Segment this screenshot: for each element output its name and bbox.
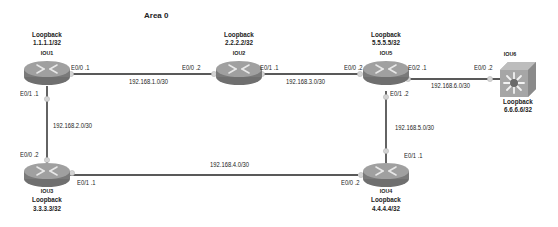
iou4-loopback-address: 4.4.4.4/32 (355, 204, 418, 214)
iou3-e0-1-interface: E0/1 .1 (77, 179, 96, 186)
links (47, 74, 510, 175)
iou6-e0-0-interface: E0/0 .2 (474, 64, 493, 71)
iou3-loopback-address: 3.3.3.3/32 (16, 204, 79, 214)
router-iou3-icon[interactable] (24, 163, 70, 187)
router-iou5-icon[interactable] (363, 61, 409, 85)
iou2-e0-0-interface: E0/0 .2 (182, 64, 201, 71)
iou2-loopback-address: 2.2.2.2/32 (208, 38, 271, 48)
iou1-e0-0-interface: E0/0 .1 (71, 64, 90, 71)
subnet-192-168-5-0: 192.168.5.0/30 (395, 124, 434, 131)
switch-iou6-icon[interactable] (500, 62, 536, 97)
iou5-e0-2-interface: E0/2 .1 (408, 64, 427, 71)
area-title: Area 0 (144, 11, 168, 20)
subnet-192-168-2-0: 192.168.2.0/30 (53, 122, 92, 129)
network-diagram: Area 0 Loopback 1.1.1.1/32 IOU1 Loopback… (0, 0, 558, 227)
iou3-e0-0-interface: E0/0 .2 (20, 151, 39, 158)
iou5-name: IOU5 (355, 48, 418, 58)
iou5-loopback-address: 5.5.5.5/32 (355, 38, 418, 48)
iou6-loopback-address: 6.6.6.6/32 (487, 105, 550, 115)
iou5-e0-1-interface: E0/1 .2 (390, 90, 409, 97)
iou1-e0-1-interface: E0/1 .1 (20, 90, 39, 97)
subnet-192-168-6-0: 192.168.6.0/30 (431, 82, 470, 89)
router-iou4-icon[interactable] (363, 163, 409, 187)
subnet-192-168-1-0: 192.168.1.0/30 (129, 78, 168, 85)
diagram-lines (0, 0, 558, 227)
iou6-name: IOU6 (479, 49, 542, 59)
iou4-e0-0-interface: E0/0 .2 (341, 179, 360, 186)
iou2-e0-1-interface: E0/1 .1 (260, 64, 279, 71)
subnet-192-168-4-0: 192.168.4.0/30 (210, 161, 249, 168)
iou1-loopback-address: 1.1.1.1/32 (16, 38, 79, 48)
iou1-name: IOU1 (16, 48, 79, 58)
subnet-192-168-3-0: 192.168.3.0/30 (286, 78, 325, 85)
iou5-e0-0-interface: E0/0 .2 (344, 64, 363, 71)
iou4-e0-1-interface: E0/1 .1 (404, 152, 423, 159)
iou2-name: IOU2 (208, 48, 271, 58)
router-iou1-icon[interactable] (24, 61, 70, 85)
router-iou2-icon[interactable] (216, 61, 262, 85)
